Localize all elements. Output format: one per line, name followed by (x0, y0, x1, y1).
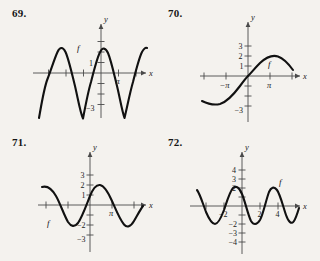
x-axis-label: x (148, 200, 153, 210)
curve-72 (197, 187, 299, 224)
y-tick-label-4: 4 (232, 166, 236, 175)
curve-label-f: f (77, 43, 81, 53)
curve-71 (42, 185, 143, 227)
problem-72: 72. x y 4 3 2 − (160, 130, 320, 261)
x-axis-label: x (302, 201, 307, 211)
y-axis-label: y (103, 14, 108, 24)
curve-70 (202, 56, 293, 105)
y-axis-arrow (99, 24, 104, 29)
curve-label-f: f (268, 59, 272, 69)
y-axis-label: y (250, 12, 255, 22)
x-tick-label-minus-pi: −π (220, 80, 231, 90)
x-tick-label-pi: π (116, 76, 121, 86)
y-tick-label-2: 2 (81, 181, 85, 190)
exercise-page: 69. x y 1 −3 (0, 0, 320, 261)
x-tick-label-4: 4 (276, 210, 280, 219)
y-tick-label-3: 3 (232, 175, 236, 184)
y-tick-label-minus3: −3 (229, 229, 238, 238)
curve-label-f: f (279, 177, 283, 187)
y-tick-label-1: 1 (82, 191, 86, 200)
y-tick-label-1: 1 (240, 62, 244, 71)
x-axis-label: x (148, 68, 153, 78)
y-tick-label-3: 3 (81, 171, 85, 180)
x-axis-arrow (141, 71, 146, 76)
problem-71: 71. x y 3 2 1 −2 −3 (0, 130, 160, 261)
graph-71: x y 3 2 1 −2 −3 π f (0, 130, 160, 261)
graph-69: x y 1 −3 π f (0, 0, 160, 130)
x-axis-arrow (295, 74, 300, 79)
y-tick-label-minus3: −3 (86, 104, 95, 113)
y-axis-arrow (88, 152, 93, 157)
problem-69: 69. x y 1 −3 (0, 0, 160, 130)
problem-70: 70. x y 3 2 1 −3 (160, 0, 320, 130)
y-tick-label-2: 2 (232, 184, 236, 193)
y-tick-label-3: 3 (239, 42, 243, 51)
y-axis-label: y (92, 142, 97, 152)
y-tick-label-2: 2 (239, 52, 243, 61)
y-axis-label: y (244, 142, 249, 152)
curve-label-f: f (47, 218, 51, 228)
y-tick-label-minus3: −3 (77, 235, 86, 244)
y-tick-label-minus4: −4 (229, 238, 238, 247)
graph-72: x y 4 3 2 −2 −3 −4 −2 2 4 f (160, 130, 320, 261)
y-tick-label-minus3: −3 (235, 106, 244, 115)
y-tick-label-minus2: −2 (229, 220, 238, 229)
x-axis-label: x (302, 71, 307, 81)
x-tick-label-pi: π (267, 80, 272, 90)
graph-70: x y 3 2 1 −3 −π π f (160, 0, 320, 130)
y-tick-label-1: 1 (89, 59, 93, 68)
y-tick-label-minus2: −2 (77, 221, 86, 230)
x-tick-label-2: 2 (258, 210, 262, 219)
x-tick-label-pi: π (109, 208, 114, 218)
x-tick-label-minus2: −2 (219, 210, 228, 219)
y-axis-arrow (246, 22, 251, 27)
y-axis-arrow (240, 152, 245, 157)
